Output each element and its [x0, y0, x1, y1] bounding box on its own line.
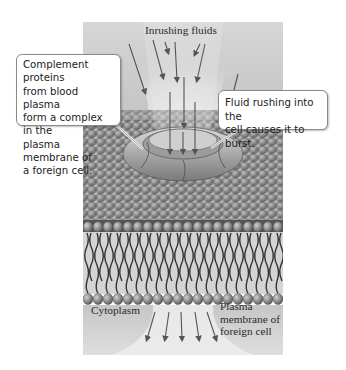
callout-line: cell causes it to burst. [225, 123, 322, 150]
callout-line: plasma membrane of [23, 138, 115, 165]
callout-line: Complement proteins [23, 58, 115, 85]
callout-line: from blood plasma [23, 85, 115, 112]
label-line: Plasma [220, 300, 290, 313]
callout-line: a foreign cell. [23, 164, 115, 177]
callout-line: Fluid rushing into the [225, 96, 322, 123]
label-line: membrane of [220, 313, 290, 326]
fluid-rushing-callout: Fluid rushing into the cell causes it to… [218, 90, 328, 130]
callout-line: form a complex in the [23, 111, 115, 138]
plasma-membrane-label: Plasma membrane of foreign cell [220, 300, 290, 338]
label-line: foreign cell [220, 325, 290, 338]
inrushing-fluids-label: Inrushing fluids [145, 24, 217, 37]
cytoplasm-label: Cytoplasm [91, 304, 140, 317]
complement-proteins-callout: Complement proteins from blood plasma fo… [16, 54, 121, 126]
